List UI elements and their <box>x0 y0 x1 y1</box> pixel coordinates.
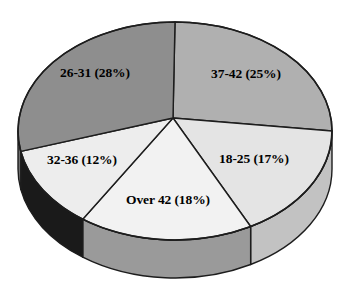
pie-top-slices <box>18 22 332 240</box>
pie-chart-svg <box>0 0 348 298</box>
pie-chart-figure: 37-42 (25%) 18-25 (17%) Over 42 (18%) 32… <box>0 0 348 298</box>
